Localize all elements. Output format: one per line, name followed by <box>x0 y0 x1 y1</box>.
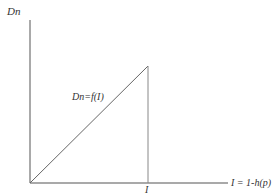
function-line <box>30 66 148 183</box>
x-tick-label: I <box>144 184 149 195</box>
curve-label: Dn=f(I) <box>71 91 104 103</box>
diagram-canvas: Dn Dn=f(I) I = 1-h(p) I <box>0 0 280 195</box>
x-axis-label: I = 1-h(p) <box>230 177 272 189</box>
y-axis-label: Dn <box>6 5 21 17</box>
